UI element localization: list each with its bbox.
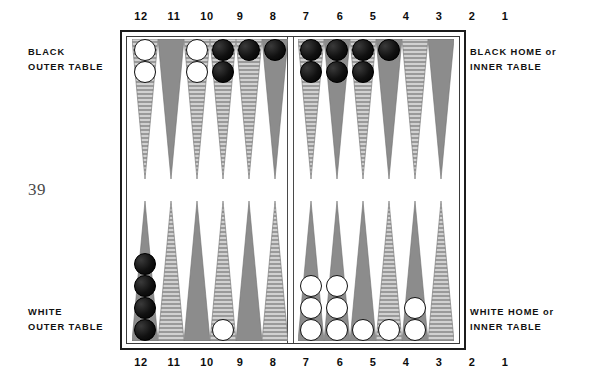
point-11[interactable] [158, 201, 184, 341]
point-number-1-bottom: 1 [492, 356, 518, 368]
checker-white-point-3[interactable] [378, 319, 400, 341]
label-white-outer-line2: OUTER TABLE [28, 320, 103, 335]
quadrant-black-outer-table [130, 39, 285, 189]
checker-black-point-12[interactable] [134, 275, 156, 297]
checker-white-point-2[interactable] [404, 319, 426, 341]
board-playing-field [126, 36, 460, 344]
checker-black-point-12[interactable] [134, 319, 156, 341]
checker-black-point-5[interactable] [326, 39, 348, 61]
label-white-outer-table: WHITE OUTER TABLE [28, 305, 103, 336]
checker-white-point-12[interactable] [134, 61, 156, 83]
point-number-4-top: 4 [393, 10, 419, 22]
backgammon-board [120, 30, 466, 350]
checker-white-point-9[interactable] [212, 319, 234, 341]
checker-white-point-5[interactable] [326, 275, 348, 297]
checker-black-point-6[interactable] [300, 61, 322, 83]
checker-black-point-5[interactable] [326, 61, 348, 83]
point-number-8-bottom: 8 [260, 356, 286, 368]
checker-white-point-6[interactable] [300, 275, 322, 297]
point-number-10-top: 10 [194, 10, 220, 22]
checker-black-point-9[interactable] [212, 39, 234, 61]
point-number-4-bottom: 4 [393, 356, 419, 368]
label-white-home-line1: WHITE HOME or [470, 305, 554, 320]
point-number-7-bottom: 7 [293, 356, 319, 368]
label-white-outer-line1: WHITE [28, 305, 103, 320]
point-10[interactable] [184, 201, 210, 341]
checker-black-point-8[interactable] [238, 39, 260, 61]
point-number-7-top: 7 [293, 10, 319, 22]
checker-white-point-5[interactable] [326, 319, 348, 341]
label-white-home-line2: INNER TABLE [470, 320, 554, 335]
point-number-6-bottom: 6 [327, 356, 353, 368]
label-black-home-table: BLACK HOME or INNER TABLE [470, 45, 557, 76]
point-number-9-bottom: 9 [227, 356, 253, 368]
point-number-2-bottom: 2 [459, 356, 485, 368]
checker-white-point-10[interactable] [186, 61, 208, 83]
point-number-9-top: 9 [227, 10, 253, 22]
point-number-5-bottom: 5 [360, 356, 386, 368]
checker-white-point-12[interactable] [134, 39, 156, 61]
point-numbers-bottom: 121110987654321 [122, 356, 462, 372]
checker-white-point-10[interactable] [186, 39, 208, 61]
checker-black-point-7[interactable] [264, 39, 286, 61]
point-number-1-top: 1 [492, 10, 518, 22]
label-black-home-line2: INNER TABLE [470, 60, 557, 75]
point-number-3-bottom: 3 [426, 356, 452, 368]
checker-black-point-12[interactable] [134, 253, 156, 275]
point-numbers-top: 121110987654321 [122, 10, 462, 26]
checker-white-point-4[interactable] [352, 319, 374, 341]
checker-black-point-4[interactable] [352, 39, 374, 61]
point-7[interactable] [262, 201, 288, 341]
point-number-2-top: 2 [459, 10, 485, 22]
point-2[interactable] [402, 39, 428, 179]
page-number: 39 [28, 180, 46, 200]
checker-white-point-2[interactable] [404, 297, 426, 319]
checker-black-point-4[interactable] [352, 61, 374, 83]
point-number-8-top: 8 [260, 10, 286, 22]
label-white-home-table: WHITE HOME or INNER TABLE [470, 305, 554, 336]
point-number-3-top: 3 [426, 10, 452, 22]
point-number-11-bottom: 11 [161, 356, 187, 368]
point-number-10-bottom: 10 [194, 356, 220, 368]
point-1[interactable] [428, 201, 454, 341]
label-black-outer-line2: OUTER TABLE [28, 60, 103, 75]
point-11[interactable] [158, 39, 184, 179]
point-number-11-top: 11 [161, 10, 187, 22]
point-number-12-bottom: 12 [128, 356, 154, 368]
point-number-12-top: 12 [128, 10, 154, 22]
point-number-6-top: 6 [327, 10, 353, 22]
point-1[interactable] [428, 39, 454, 179]
checker-white-point-6[interactable] [300, 297, 322, 319]
point-number-5-top: 5 [360, 10, 386, 22]
label-black-outer-table: BLACK OUTER TABLE [28, 45, 103, 76]
checker-black-point-12[interactable] [134, 297, 156, 319]
label-black-home-line1: BLACK HOME or [470, 45, 557, 60]
label-black-outer-line1: BLACK [28, 45, 103, 60]
quadrant-white-outer-table [130, 191, 285, 341]
quadrant-black-home-table [296, 39, 451, 189]
checker-white-point-6[interactable] [300, 319, 322, 341]
checker-white-point-5[interactable] [326, 297, 348, 319]
checker-black-point-3[interactable] [378, 39, 400, 61]
checker-black-point-6[interactable] [300, 39, 322, 61]
quadrant-white-home-table [296, 191, 451, 341]
center-bar [287, 37, 294, 343]
checker-black-point-9[interactable] [212, 61, 234, 83]
point-8[interactable] [236, 201, 262, 341]
